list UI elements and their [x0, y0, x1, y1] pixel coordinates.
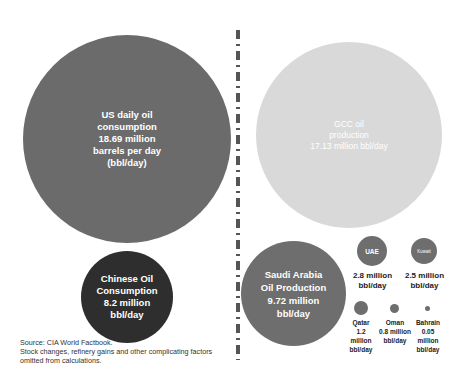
qatar-bubble — [354, 301, 368, 315]
gcc-label-2: production — [310, 130, 388, 141]
us-label-5: (bbl/day) — [93, 157, 161, 169]
bahrain-value-label: Bahrain0.05millionbbl/day — [407, 318, 449, 354]
gcc-production-bubble: GCC oil production 17.13 million bbl/day — [256, 42, 442, 228]
gcc-label-1: GCC oil — [310, 119, 388, 130]
china-label-3: 8.2 million — [96, 297, 157, 309]
bahrain-bubble — [425, 306, 430, 311]
china-label-4: bbl/day — [96, 309, 157, 321]
china-label-2: Consumption — [96, 285, 157, 297]
us-label-2: consumption — [93, 121, 161, 133]
saudi-production-bubble: Saudi Arabia Oil Production 9.72 million… — [241, 241, 346, 346]
source-line-2: Stock changes, refinery gains and other … — [20, 347, 212, 356]
saudi-label-4: bbl/day — [261, 307, 326, 320]
saudi-label-1: Saudi Arabia — [261, 268, 326, 281]
source-note: Source: CIA World Factbook. Stock change… — [20, 338, 212, 365]
uae-bubble: UAE — [357, 236, 387, 266]
kuwait-bubble: Kuwait — [411, 238, 437, 264]
us-label-4: barrels per day — [93, 145, 161, 157]
china-label-1: Chinese Oil — [96, 273, 157, 285]
china-consumption-bubble: Chinese Oil Consumption 8.2 million bbl/… — [81, 251, 173, 343]
us-label-3: 18.69 million — [93, 133, 161, 145]
gcc-label-3: 17.13 million bbl/day — [310, 141, 388, 152]
us-consumption-bubble: US daily oil consumption 18.69 million b… — [23, 35, 231, 243]
kuwait-name: Kuwait — [417, 249, 431, 254]
saudi-label-3: 9.72 million — [261, 294, 326, 307]
uae-name: UAE — [365, 248, 379, 255]
source-line-1: Source: CIA World Factbook. — [20, 338, 212, 347]
saudi-label-2: Oil Production — [261, 281, 326, 294]
kuwait-value-label: 2.5 millionbbl/day — [397, 271, 452, 291]
oman-bubble — [390, 304, 399, 313]
us-label-1: US daily oil — [93, 109, 161, 121]
source-line-3: omitted from calculations. — [20, 356, 212, 365]
section-divider — [236, 30, 240, 360]
uae-value-label: 2.8 millionbbl/day — [345, 271, 400, 291]
